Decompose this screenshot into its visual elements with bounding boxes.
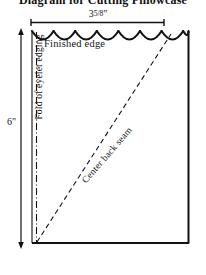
center-back-seam-line: [37, 34, 171, 242]
fabric-panel-outline: [32, 31, 189, 244]
height-dimension-label: 6": [7, 116, 16, 127]
width-fraction: 5/8: [94, 9, 104, 18]
width-dimension-label: 35/8": [0, 8, 196, 19]
fold-of-eyelet-edging-label: Fold of eyelet edging: [34, 17, 44, 137]
finished-edge-label: Finished edge: [44, 38, 105, 49]
width-unit: ": [103, 8, 107, 19]
width-dimension-line: [31, 19, 164, 26]
height-dimension-line: [18, 28, 24, 249]
pillowcase-cutting-diagram: Diagram for Cutting Pillowcase: [0, 0, 206, 275]
